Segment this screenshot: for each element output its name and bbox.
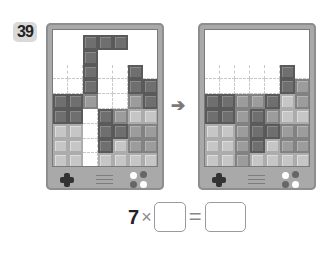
device-controls [198, 169, 316, 189]
empty-cell [53, 50, 68, 65]
answer-box-2[interactable] [205, 202, 246, 232]
empty-cell [220, 65, 235, 80]
block-cell [295, 124, 310, 139]
block-cell [220, 124, 235, 139]
block-cell [98, 139, 113, 154]
empty-cell [295, 35, 310, 50]
block-cell [265, 139, 280, 154]
block-cell [295, 79, 310, 94]
block-cell [205, 94, 220, 109]
empty-cell [68, 35, 83, 50]
empty-cell [98, 79, 113, 94]
block-cell [235, 139, 250, 154]
block-cell [143, 94, 158, 109]
empty-cell [98, 50, 113, 65]
block-cell [83, 79, 98, 94]
empty-cell [265, 65, 280, 80]
block-cell [295, 109, 310, 124]
block-cell [295, 139, 310, 154]
block-cell [98, 109, 113, 124]
empty-cell [143, 35, 158, 50]
dpad-icon [212, 173, 226, 187]
problem-number-badge: 39 [13, 22, 37, 42]
empty-cell [235, 65, 250, 80]
empty-cell [83, 124, 98, 139]
block-cell [143, 109, 158, 124]
block-cell [220, 153, 235, 167]
block-cell [128, 124, 143, 139]
empty-cell [205, 79, 220, 94]
block-cell [250, 109, 265, 124]
empty-cell [220, 35, 235, 50]
block-cell [235, 153, 250, 167]
block-cell [128, 79, 143, 94]
speaker-lines-icon [96, 175, 113, 187]
block-cell [265, 109, 280, 124]
empty-cell [68, 79, 83, 94]
block-cell [68, 94, 83, 109]
empty-cell [265, 50, 280, 65]
block-cell [53, 109, 68, 124]
block-cell [280, 153, 295, 167]
empty-cell [53, 35, 68, 50]
block-cell [295, 94, 310, 109]
block-cell [250, 124, 265, 139]
block-cell [250, 139, 265, 154]
action-buttons-icon [281, 171, 301, 189]
empty-cell [205, 50, 220, 65]
empty-cell [235, 50, 250, 65]
block-cell [235, 124, 250, 139]
block-cell [220, 109, 235, 124]
empty-cell [113, 50, 128, 65]
game-screen [204, 29, 310, 167]
block-cell [113, 139, 128, 154]
block-cell [83, 94, 98, 109]
block-cell [83, 50, 98, 65]
block-cell [220, 139, 235, 154]
block-cell [68, 109, 83, 124]
empty-cell [265, 79, 280, 94]
empty-cell [53, 79, 68, 94]
block-cell [143, 139, 158, 154]
block-cell [280, 124, 295, 139]
empty-cell [113, 79, 128, 94]
block-cell [205, 124, 220, 139]
block-cell [128, 94, 143, 109]
block-cell [280, 94, 295, 109]
block-cell [68, 124, 83, 139]
empty-cell [295, 65, 310, 80]
empty-cell [235, 35, 250, 50]
empty-cell [235, 79, 250, 94]
block-cell [143, 124, 158, 139]
speaker-lines-icon [248, 175, 265, 187]
empty-cell [143, 65, 158, 80]
action-buttons-icon [129, 171, 149, 189]
equation: 7 × = [128, 200, 246, 234]
block-cell [68, 139, 83, 154]
block-cell [128, 109, 143, 124]
empty-cell [265, 35, 280, 50]
block-cell [205, 109, 220, 124]
block-cell [280, 79, 295, 94]
empty-cell [250, 35, 265, 50]
block-cell [235, 109, 250, 124]
answer-box-1[interactable] [154, 202, 186, 232]
block-cell [113, 35, 128, 50]
multiplicand: 7 [128, 206, 139, 229]
block-cell [265, 94, 280, 109]
block-cell [250, 153, 265, 167]
dpad-icon [60, 173, 74, 187]
block-grid [205, 35, 310, 167]
empty-cell [250, 79, 265, 94]
empty-cell [205, 35, 220, 50]
empty-cell [113, 94, 128, 109]
empty-cell [128, 35, 143, 50]
block-cell [143, 153, 158, 167]
block-cell [98, 35, 113, 50]
block-cell [265, 124, 280, 139]
block-cell [113, 124, 128, 139]
block-cell [53, 94, 68, 109]
empty-cell [98, 65, 113, 80]
empty-cell [68, 50, 83, 65]
block-cell [128, 65, 143, 80]
